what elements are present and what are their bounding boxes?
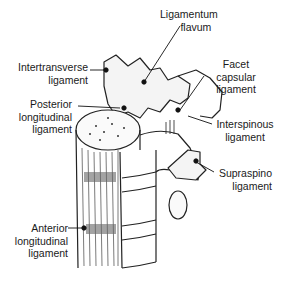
label-line: Ligamentum	[160, 8, 218, 21]
label-supraspino-ligament: Supraspino ligament	[214, 167, 272, 192]
label-line: longitudinal	[8, 235, 68, 248]
label-line: ligament	[212, 131, 278, 144]
label-posterior-longitudinal-ligament: Posterior longitudinal ligament	[14, 98, 72, 136]
label-line: ligament	[8, 247, 68, 260]
label-line: ligament	[208, 83, 264, 96]
label-line: Posterior	[14, 98, 72, 111]
label-interspinous-ligament: Interspinous ligament	[212, 118, 278, 143]
label-line: ligament	[14, 123, 72, 136]
label-line: ligament	[16, 74, 88, 87]
label-line: longitudinal	[14, 111, 72, 124]
label-anterior-longitudinal-ligament: Anterior longitudinal ligament	[8, 222, 68, 260]
label-line: Facet	[208, 58, 264, 71]
label-line: Intertransverse	[16, 61, 88, 74]
label-line: Interspinous	[212, 118, 278, 131]
label-line: capsular	[208, 71, 264, 84]
label-line: Anterior	[8, 222, 68, 235]
label-line: Supraspino	[214, 167, 272, 180]
label-facet-capsular-ligament: Facet capsular ligament	[208, 58, 264, 96]
label-intertransverse-ligament: Intertransverse ligament	[16, 61, 88, 86]
label-line: flavum	[160, 21, 218, 34]
label-ligamentum-flavum: Ligamentum flavum	[160, 8, 218, 33]
label-line: ligament	[214, 180, 272, 193]
